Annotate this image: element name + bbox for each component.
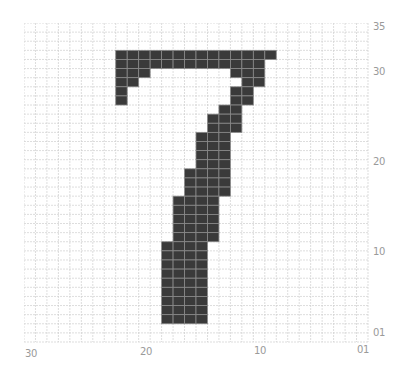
filled-cell: [185, 296, 196, 305]
filled-cell: [162, 269, 173, 278]
filled-cell: [162, 50, 173, 59]
x-tick-label: 10: [254, 346, 266, 356]
filled-cell: [127, 59, 138, 68]
filled-cell: [162, 315, 173, 324]
filled-cell: [173, 315, 184, 324]
filled-cell: [162, 59, 173, 68]
filled-cell: [219, 141, 230, 150]
filled-cell: [230, 105, 241, 114]
filled-cell: [162, 296, 173, 305]
filled-cell: [173, 260, 184, 269]
filled-cell: [207, 114, 218, 123]
filled-cell: [196, 278, 207, 287]
filled-cell: [242, 50, 253, 59]
filled-cell: [173, 205, 184, 214]
filled-cell: [116, 59, 127, 68]
filled-cell: [242, 96, 253, 105]
filled-cell: [196, 242, 207, 251]
filled-cell: [185, 224, 196, 233]
filled-cell: [196, 187, 207, 196]
filled-cell: [185, 205, 196, 214]
filled-cell: [196, 178, 207, 187]
filled-cell: [207, 178, 218, 187]
filled-cell: [185, 251, 196, 260]
filled-cell: [173, 296, 184, 305]
filled-cell: [185, 59, 196, 68]
filled-cell: [207, 123, 218, 132]
filled-cell: [139, 59, 150, 68]
filled-cell: [207, 151, 218, 160]
filled-cell: [173, 251, 184, 260]
filled-cell: [196, 196, 207, 205]
filled-cell: [230, 59, 241, 68]
filled-cell: [196, 296, 207, 305]
filled-cell: [242, 59, 253, 68]
filled-cell: [185, 287, 196, 296]
digit-grid-svg: [24, 23, 369, 343]
filled-cell: [219, 169, 230, 178]
filled-cell: [253, 50, 264, 59]
filled-cell: [196, 306, 207, 315]
filled-cell: [185, 233, 196, 242]
filled-cell: [196, 233, 207, 242]
filled-cell: [196, 132, 207, 141]
filled-cell: [219, 123, 230, 132]
filled-cell: [185, 269, 196, 278]
filled-cell: [230, 123, 241, 132]
y-tick-label: 20: [373, 157, 385, 167]
filled-cell: [185, 306, 196, 315]
filled-cell: [150, 50, 161, 59]
filled-cell: [185, 169, 196, 178]
filled-cell: [219, 105, 230, 114]
filled-cell: [185, 196, 196, 205]
filled-cell: [196, 224, 207, 233]
filled-cell: [219, 132, 230, 141]
filled-cell: [173, 233, 184, 242]
filled-cell: [173, 242, 184, 251]
x-tick-label: 01: [357, 345, 369, 355]
filled-cell: [207, 59, 218, 68]
filled-cell: [219, 160, 230, 169]
filled-cell: [127, 50, 138, 59]
filled-cell: [196, 169, 207, 178]
filled-cell: [242, 69, 253, 78]
filled-cell: [185, 187, 196, 196]
filled-cell: [116, 96, 127, 105]
filled-cell: [219, 50, 230, 59]
filled-cell: [207, 196, 218, 205]
filled-cell: [116, 78, 127, 87]
filled-cell: [139, 50, 150, 59]
filled-cell: [162, 278, 173, 287]
filled-cell: [230, 96, 241, 105]
filled-cell: [196, 315, 207, 324]
filled-cell: [207, 214, 218, 223]
filled-cell: [230, 114, 241, 123]
filled-cell: [253, 59, 264, 68]
filled-cell: [230, 50, 241, 59]
filled-cell: [219, 178, 230, 187]
filled-cell: [219, 151, 230, 160]
filled-cell: [196, 160, 207, 169]
filled-cell: [185, 315, 196, 324]
filled-cell: [173, 287, 184, 296]
filled-cell: [207, 132, 218, 141]
filled-cell: [219, 187, 230, 196]
filled-cell: [185, 278, 196, 287]
filled-cell: [173, 278, 184, 287]
filled-cell: [173, 306, 184, 315]
filled-cell: [196, 205, 207, 214]
y-tick-label: 01: [373, 328, 385, 338]
x-tick-label: 30: [25, 349, 37, 359]
filled-cell: [162, 242, 173, 251]
filled-cell: [185, 260, 196, 269]
y-tick-label: 10: [373, 247, 385, 257]
filled-cell: [173, 50, 184, 59]
filled-cell: [196, 50, 207, 59]
filled-cell: [173, 214, 184, 223]
filled-cell: [219, 114, 230, 123]
filled-cell: [207, 205, 218, 214]
filled-cell: [127, 69, 138, 78]
filled-cell: [185, 178, 196, 187]
filled-cell: [196, 141, 207, 150]
filled-cell: [196, 251, 207, 260]
